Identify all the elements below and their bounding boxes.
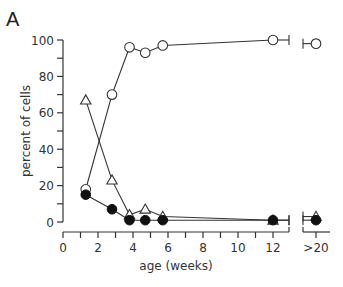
series-line [86,100,273,220]
filled-circle-marker [125,215,135,225]
filled-circle-marker [268,215,278,225]
open-triangle-marker [140,204,150,213]
filled-circle-marker [311,215,321,225]
x-tick-label: 2 [94,241,102,255]
open-triangle-marker [81,95,91,104]
y-tick-label: 60 [39,106,54,120]
x-tick-label: 8 [199,241,207,255]
x-axis-label: age (weeks) [139,259,212,273]
open-circle-marker [107,90,117,100]
y-tick-label: 100 [31,34,54,48]
x-tick-label: >20 [303,241,328,255]
open-triangle-marker [107,175,117,184]
filled-circle-marker [81,190,91,200]
x-tick-label: 4 [129,241,137,255]
line-chart: 020406080100024681012>20 age (weeks) per… [0,0,343,287]
y-tick-label: 80 [39,70,54,84]
open-circle-marker [125,42,135,52]
open-circle-marker [268,35,278,45]
x-tick-label: 0 [59,241,67,255]
x-tick-label: 6 [164,241,172,255]
data-series [81,35,322,225]
y-tick-label: 40 [39,143,54,157]
open-circle-marker [158,41,168,51]
x-tick-label: 10 [230,241,245,255]
y-tick-label: 0 [46,216,54,230]
filled-circle-marker [140,215,150,225]
filled-circle-marker [158,215,168,225]
filled-circle-marker [107,204,117,214]
y-axis-label: percent of cells [19,85,33,177]
y-tick-label: 20 [39,179,54,193]
axes: 020406080100024681012>20 [31,34,330,256]
x-tick-label: 12 [265,241,280,255]
series-line [86,40,273,189]
open-circle-marker [311,39,321,49]
open-circle-marker [140,48,150,58]
